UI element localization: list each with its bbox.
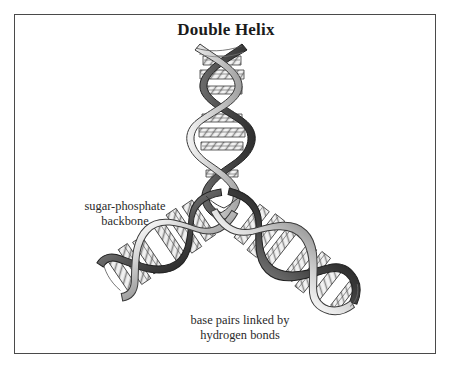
label-backbone-line-1: sugar-phosphate	[62, 199, 188, 214]
figure-page: Double Helix sugar-phosphate backbone ba…	[0, 0, 452, 372]
figure-title: Double Helix	[0, 20, 452, 40]
label-basepairs-line-2: hydrogen bonds	[158, 328, 322, 343]
label-basepairs-line-1: base pairs linked by	[158, 313, 322, 328]
label-base-pairs-hydrogen-bonds: base pairs linked by hydrogen bonds	[158, 313, 322, 342]
label-sugar-phosphate-backbone: sugar-phosphate backbone	[62, 199, 188, 228]
label-backbone-line-2: backbone	[62, 214, 188, 229]
figure-border	[14, 14, 436, 354]
